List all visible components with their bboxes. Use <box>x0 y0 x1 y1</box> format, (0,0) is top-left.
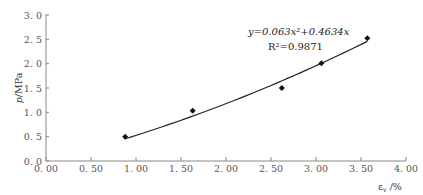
x-axis-ticks: 0. 000. 501. 001. 502. 002. 503. 003. 50… <box>34 157 418 174</box>
data-point-marker <box>318 60 324 66</box>
data-point-marker <box>279 85 285 91</box>
y-tick-label: 1. 5 <box>24 83 42 94</box>
equation-label: y=0.063x²+0.4634x <box>247 26 350 37</box>
x-tick-label: 3. 50 <box>349 163 373 174</box>
data-points <box>122 35 370 139</box>
y-tick-label: 2. 0 <box>24 58 42 69</box>
data-point-marker <box>364 35 370 41</box>
x-tick-label: 2. 50 <box>259 163 283 174</box>
axes <box>46 14 406 161</box>
y-axis-ticks: 0. 00. 51. 01. 52. 02. 53. 0 <box>24 10 49 167</box>
x-axis-label: εv /% <box>378 181 402 194</box>
y-tick-label: 1. 0 <box>24 107 42 118</box>
x-tick-label: 0. 00 <box>34 163 58 174</box>
y-axis-label: p/MPa <box>13 72 24 103</box>
fit-curve <box>125 41 367 138</box>
x-tick-label: 2. 00 <box>214 163 238 174</box>
x-tick-label: 1. 00 <box>124 163 148 174</box>
r-squared-label: R²=0.9871 <box>268 41 323 52</box>
x-tick-label: 3. 00 <box>304 163 328 174</box>
y-tick-label: 0. 5 <box>24 131 42 142</box>
x-tick-label: 1. 50 <box>169 163 193 174</box>
x-tick-label: 0. 50 <box>79 163 103 174</box>
data-point-marker <box>190 108 196 114</box>
y-tick-label: 2. 5 <box>24 34 42 45</box>
x-tick-label: 4. 00 <box>394 163 418 174</box>
y-tick-label: 3. 0 <box>24 10 42 21</box>
scatter-chart: 0. 00. 51. 01. 52. 02. 53. 0 0. 000. 501… <box>0 0 423 195</box>
